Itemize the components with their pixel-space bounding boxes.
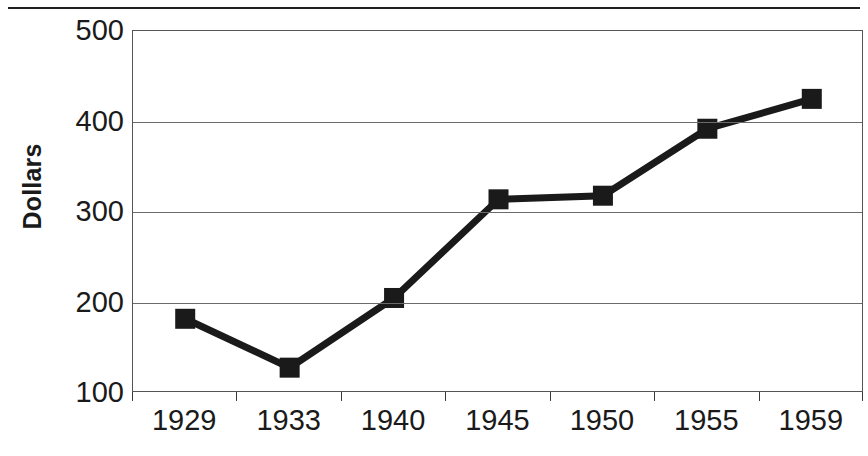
x-axis-tick — [759, 392, 760, 401]
y-axis-tick-label: 500 — [40, 14, 124, 47]
x-axis-tick — [445, 392, 446, 401]
plot-area — [132, 30, 863, 392]
x-axis-ticks — [132, 392, 863, 401]
y-axis-tick-labels: 500400300200100 — [40, 30, 124, 392]
data-point-marker — [593, 186, 613, 206]
data-point-marker — [489, 189, 509, 209]
data-point-marker — [384, 288, 404, 308]
gridline — [133, 212, 862, 213]
x-axis-tick-label: 1933 — [234, 404, 344, 437]
x-axis-tick-label: 1940 — [338, 404, 448, 437]
series-line — [185, 99, 812, 368]
y-axis-tick-label: 300 — [40, 195, 124, 228]
gridline — [133, 122, 862, 123]
x-axis-tick — [236, 392, 237, 401]
x-axis-tick — [862, 392, 863, 401]
data-point-marker — [280, 358, 300, 378]
y-axis-tick-label: 400 — [40, 104, 124, 137]
chart-figure: Dollars 500400300200100 1929193319401945… — [0, 0, 868, 456]
data-point-marker — [175, 309, 195, 329]
x-axis-tick-labels: 1929193319401945195019551959 — [132, 404, 863, 444]
x-axis-tick — [341, 392, 342, 401]
x-axis-tick-label: 1929 — [129, 404, 239, 437]
data-point-marker — [802, 89, 822, 109]
x-axis-tick — [550, 392, 551, 401]
x-axis-tick-label: 1950 — [547, 404, 657, 437]
x-axis-tick-label: 1945 — [443, 404, 553, 437]
x-axis-tick-label: 1955 — [651, 404, 761, 437]
y-axis-tick-label: 100 — [40, 376, 124, 409]
y-axis-tick-label: 200 — [40, 285, 124, 318]
top-divider-rule — [8, 7, 860, 9]
x-axis-tick — [132, 392, 133, 401]
x-axis-tick — [654, 392, 655, 401]
gridline — [133, 303, 862, 304]
x-axis-tick-label: 1959 — [756, 404, 866, 437]
